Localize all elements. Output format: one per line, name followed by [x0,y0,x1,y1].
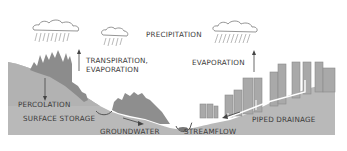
label-transpiration: TRANSPIRATION, [86,57,148,65]
diagram-artwork [0,0,347,151]
label-groundwater: GROUNDWATER [100,128,160,136]
label-precipitation: PRECIPITATION [146,31,202,39]
left-cloud [33,20,79,31]
label-streamflow: STREAMFLOW [184,128,236,136]
right-cloud [213,21,257,32]
label-transpiration-evaporation: EVAPORATION [86,66,139,74]
water-cycle-diagram: PRECIPITATION TRANSPIRATION, EVAPORATION… [0,0,347,151]
right-rain [215,34,250,43]
label-evaporation: EVAPORATION [192,59,245,67]
label-surface-storage: SURFACE STORAGE [23,115,95,123]
left-rain [35,33,69,42]
label-percolation: PERCOLATION [18,101,70,109]
transpiration-arrow [77,49,81,71]
center-rain [104,38,122,46]
evaporation-arrow [252,50,256,72]
label-piped-drainage: PIPED DRAINAGE [252,116,316,124]
center-cloud [102,27,128,36]
